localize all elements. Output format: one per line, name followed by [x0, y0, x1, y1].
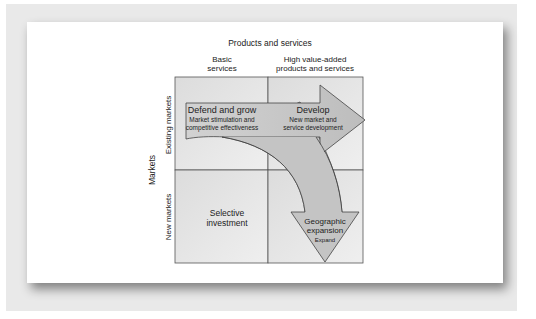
develop-sub1: New market and — [289, 116, 337, 123]
x-axis-title: Products and services — [228, 38, 312, 48]
row-label-new-markets: New markets — [164, 194, 173, 241]
column-header-basic-line2: services — [207, 64, 236, 73]
strategy-matrix-diagram: Products and services Basic services Hig… — [0, 0, 536, 319]
column-header-highvalue-line2: products and services — [276, 64, 354, 73]
geographic-expansion-sub: Expand — [315, 237, 335, 243]
defend-grow-title: Defend and grow — [188, 105, 257, 115]
defend-grow-sub2: competitive effectiveness — [186, 124, 259, 132]
geographic-expansion-line2: expansion — [307, 226, 343, 235]
column-header-basic-line1: Basic — [212, 55, 232, 64]
y-axis-title: Markets — [147, 155, 157, 185]
selective-investment-line1: Selective — [210, 208, 245, 218]
develop-sub2: service development — [283, 124, 343, 132]
develop-title: Develop — [296, 105, 329, 115]
geographic-expansion-line1: Geographic — [304, 217, 345, 226]
defend-grow-sub1: Market stimulation and — [189, 116, 255, 123]
row-label-existing-markets: Existing markets — [164, 96, 173, 155]
selective-investment-line2: investment — [206, 218, 248, 228]
column-header-highvalue-line1: High value-added — [284, 55, 347, 64]
